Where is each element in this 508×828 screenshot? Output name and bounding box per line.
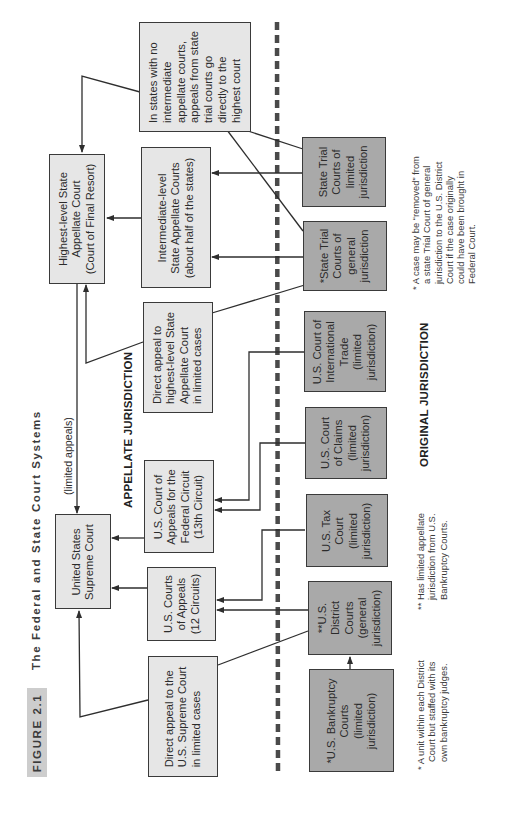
international-trade-label: U.S. Court of International Trade (limit… [311, 319, 378, 384]
direct-appeal-state-box: Direct appeal to highest-level State App… [143, 302, 213, 413]
intermediate-state-courts-label: Intermediate-level State Appellate Court… [156, 157, 196, 278]
appellate-jurisdiction-heading: APPELLATE JURISDICTION [122, 352, 134, 508]
no-intermediate-note-box: In states with no intermediate appellate… [139, 22, 251, 132]
federal-circuit-label: U.S. Court of Appeals for the Federal Ci… [152, 469, 206, 544]
highest-state-court-label: Highest-level State Appellate Court (Cou… [57, 164, 97, 275]
supreme-court-label: United States Supreme Court [70, 524, 97, 600]
international-trade-box: U.S. Court of International Trade (limit… [304, 311, 386, 392]
direct-appeal-state-label: Direct appeal to highest-level State App… [151, 311, 205, 403]
figure-title: The Federal and State Court Systems [30, 410, 42, 670]
original-jurisdiction-heading: ORIGINAL JURISDICTION [418, 322, 430, 467]
jurisdiction-divider [277, 22, 278, 772]
intermediate-state-courts-box: Intermediate-level State Appellate Court… [141, 147, 211, 288]
district-courts-box: **U.S. District Courts (general jurisdic… [308, 581, 392, 655]
bankruptcy-courts-label: *U.S. Bankruptcy Courts (limited jurisdi… [325, 678, 379, 763]
footnote-bankruptcy: * A unit within each District Court but … [415, 660, 449, 770]
courts-of-appeals-label: U.S. Courts of Appeals (12 Circuits) [161, 574, 201, 634]
court-of-claims-box: U.S. Court of Claims (limited jurisdicti… [305, 407, 387, 479]
direct-appeal-us-label: Direct appeal to the U.S. Supreme Court … [163, 666, 203, 767]
limited-appeals-label: (limited appeals) [62, 417, 74, 495]
supreme-court-box: United States Supreme Court [55, 514, 111, 609]
state-trial-general-box: *State Trial Courts of general jurisdict… [303, 221, 387, 291]
direct-appeal-us-box: Direct appeal to the U.S. Supreme Court … [148, 656, 218, 777]
highest-state-court-box: Highest-level State Appellate Court (Cou… [49, 154, 105, 284]
courts-of-appeals-box: U.S. Courts of Appeals (12 Circuits) [147, 567, 216, 641]
tax-court-label: U.S. Tax Court (limited jurisdiction) [320, 502, 374, 559]
tax-court-box: U.S. Tax Court (limited jurisdiction) [306, 494, 388, 567]
bankruptcy-courts-box: *U.S. Bankruptcy Courts (limited jurisdi… [309, 669, 394, 772]
federal-circuit-box: U.S. Court of Appeals for the Federal Ci… [144, 460, 214, 553]
district-courts-label: **U.S. District Courts (general jurisdic… [316, 590, 383, 647]
figure-number-badge: FIGURE 2.1 [27, 688, 47, 777]
state-trial-limited-box: State Trial Courts of limited jurisdicti… [302, 137, 386, 207]
no-intermediate-note-label: In states with no intermediate appellate… [147, 31, 244, 123]
figure-number: FIGURE 2.1 [31, 693, 43, 772]
footnote-district: ** Has limited appellate jurisdiction fr… [415, 513, 449, 610]
footnote-removal: * A case may be “removed” from a state T… [410, 156, 478, 290]
state-trial-limited-label: State Trial Courts of limited jurisdicti… [317, 146, 371, 199]
state-trial-general-label: *State Trial Courts of general jurisdict… [318, 229, 372, 284]
court-of-claims-label: U.S. Court of Claims (limited jurisdicti… [319, 415, 373, 472]
